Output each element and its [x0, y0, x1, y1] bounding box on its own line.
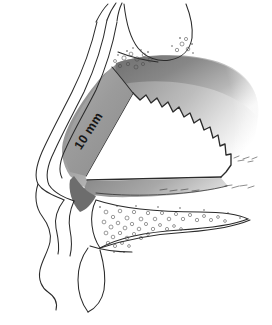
columella-inner-line: [69, 201, 74, 256]
columella-line: [55, 200, 64, 254]
glabella-line-c: [117, 3, 122, 21]
palate-shelf-line: [90, 246, 132, 252]
nasal-septum-illustration: 10 mm: [0, 0, 272, 325]
glabella-line-a: [96, 4, 108, 22]
spine-lower-edge: [78, 248, 88, 312]
upper-lip-profile: [36, 184, 57, 310]
figure-canvas: 10 mm: [0, 0, 272, 325]
glabella-line-b: [107, 3, 116, 20]
anterior-nasal-spine: [88, 250, 105, 312]
